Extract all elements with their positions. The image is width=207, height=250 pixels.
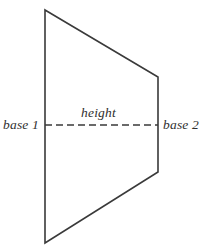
height-label: height [81, 106, 116, 120]
trapezoid-outline [45, 10, 158, 243]
trapezoid-diagram: base 1 base 2 height [0, 0, 207, 250]
base-1-label: base 1 [3, 118, 39, 132]
base-2-label: base 2 [163, 118, 199, 132]
